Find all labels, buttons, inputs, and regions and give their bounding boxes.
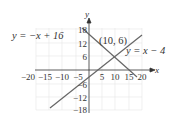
svg-text:12: 12 (78, 39, 87, 49)
svg-text:6: 6 (83, 52, 88, 62)
svg-text:−18: −18 (73, 105, 88, 115)
svg-text:20: 20 (138, 72, 148, 82)
intersection-label: (10, 6) (99, 35, 127, 47)
svg-text:−20: −20 (21, 72, 36, 82)
svg-text:15: 15 (125, 72, 135, 82)
svg-text:5: 5 (100, 72, 105, 82)
line2-label: y = x − 4 (125, 45, 166, 56)
y-axis-label: y (84, 9, 89, 19)
svg-text:−6: −6 (77, 80, 87, 90)
x-axis-label: x (154, 65, 159, 75)
svg-text:−10: −10 (55, 72, 70, 82)
svg-text:18: 18 (78, 25, 88, 35)
svg-text:10: 10 (111, 72, 121, 82)
line1-label: y = −x + 16 (11, 30, 64, 41)
svg-text:−15: −15 (38, 72, 53, 82)
chart: y = −x + 16 y = x − 4 (10, 6) x y −20 −1… (0, 0, 187, 118)
svg-text:−12: −12 (73, 93, 87, 103)
